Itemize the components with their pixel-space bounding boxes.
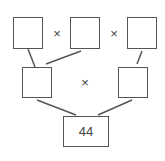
top-middle-box[interactable] bbox=[70, 17, 100, 49]
top-left-box[interactable] bbox=[13, 17, 43, 49]
middle-right-box[interactable] bbox=[118, 67, 148, 98]
middle-left-box[interactable] bbox=[22, 67, 52, 98]
multiply-sign-1: × bbox=[51, 27, 63, 40]
result-box: 44 bbox=[63, 116, 109, 147]
top-right-box[interactable] bbox=[127, 17, 157, 49]
multiply-sign-2: × bbox=[108, 27, 120, 40]
multiply-sign-3: × bbox=[79, 76, 91, 89]
